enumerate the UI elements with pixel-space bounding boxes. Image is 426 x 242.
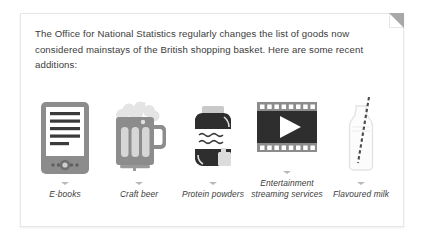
milk-bottle-straw-icon [338,97,384,175]
beer-mug-icon [109,97,169,175]
caret-down-icon [357,182,365,185]
caret-down-icon [61,182,69,185]
list-item: Flavoured milk [325,97,397,200]
film-strip-play-icon [255,86,319,164]
corner-fold-icon [389,13,404,28]
list-item: Craft beer [103,97,175,200]
e-reader-icon [40,97,90,175]
list-item-label: Craft beer [120,189,158,200]
caret-down-icon [283,171,291,174]
intro-paragraph: The Office for National Statistics regul… [35,26,387,73]
list-item: Entertainment streaming services [251,86,323,199]
info-card: The Office for National Statistics regul… [20,13,404,227]
caret-down-icon [209,182,217,185]
list-item-label: Flavoured milk [333,189,389,200]
list-item-label: Protein powders [182,189,244,200]
list-item: Protein powders [177,97,249,200]
list-item-label: E-books [49,189,80,200]
list-item: E-books [29,97,101,200]
list-item-label: Entertainment streaming services [251,178,323,199]
items-row: E-books [29,86,397,199]
caret-down-icon [135,182,143,185]
protein-jar-icon [183,97,243,175]
screenshot-root: The Office for National Statistics regul… [0,0,426,242]
